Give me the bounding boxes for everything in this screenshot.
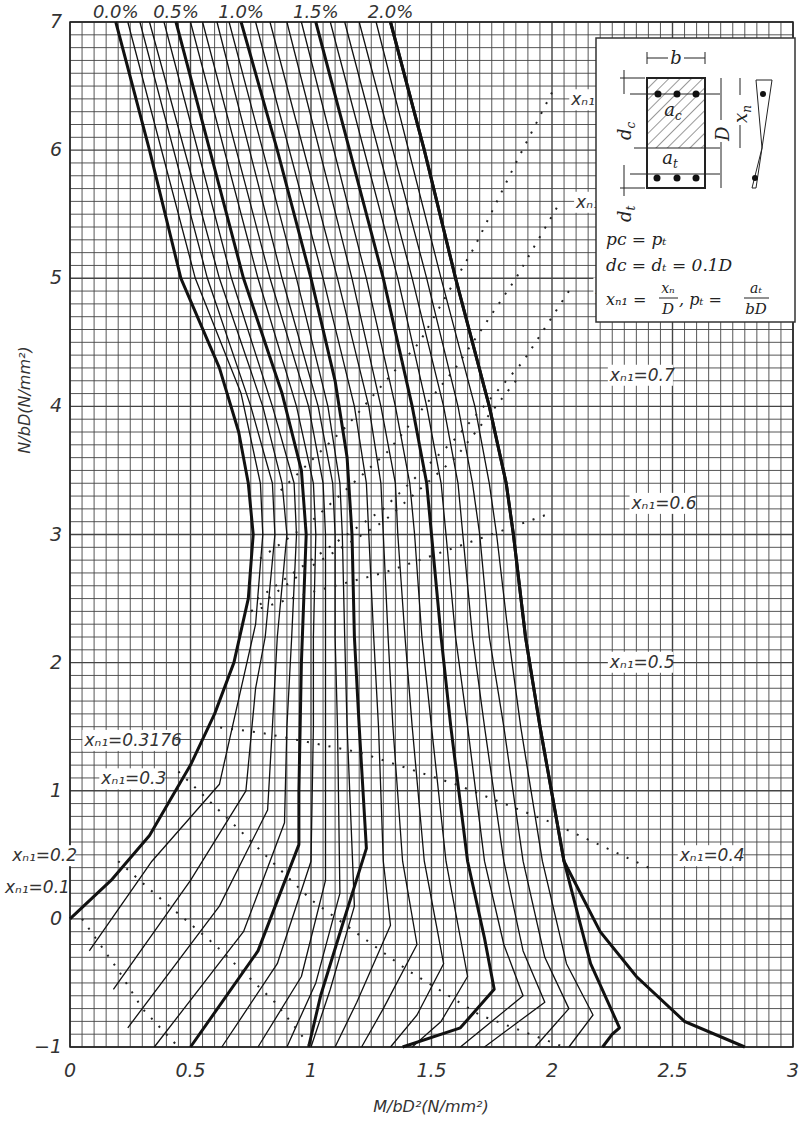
x-tick-label: 2.5 [657,1059,687,1081]
y-tick-label: 2 [50,651,62,673]
xn1-annotation: xₙ₁=0.6 [631,493,697,513]
x-tick-label: 1.5 [416,1059,446,1081]
svg-text:xₙ₁ =: xₙ₁ = [606,290,646,309]
y-tick-label: 5 [50,266,62,288]
x-axis-label: M/bD²(N/mm²) [373,1097,489,1116]
y-tick-label: −1 [34,1035,62,1057]
x-tick-label: 0.5 [175,1059,205,1081]
svg-text:xₙ: xₙ [661,280,675,296]
series-label-top: 2.0% [368,1,414,22]
x-tick-label: 2 [546,1059,558,1081]
y-tick-label: 0 [50,907,62,929]
series-label-top: 0.5% [153,1,199,22]
xn1-annotation: xₙ₁=0.3 [100,768,166,788]
xn1-dotted-line [275,93,552,497]
series-label-top: 1.5% [293,1,339,22]
xn1-annotation: xₙ₁=0.2 [11,845,77,865]
svg-text:, pₜ =: , pₜ = [679,290,722,309]
width-label: b [670,47,682,68]
interaction-diagram-chart: 00.511.522.53−1012345670.0%0.5%1.0%1.5%2… [0,0,810,1129]
formula-ratio-equal: pᴄ = pₜ [606,229,667,249]
xn1-annotation: xₙ₁=0.3176 [83,730,182,750]
depth-label: D [712,126,733,142]
y-tick-label: 3 [50,523,62,545]
xn1-annotation: xₙ₁=0.4 [679,845,745,865]
y-tick-label: 7 [50,10,62,32]
y-tick-label: 6 [50,138,62,160]
series-label-top: 0.0% [93,1,139,22]
x-tick-label: 3 [787,1059,799,1081]
svg-text:aₜ: aₜ [750,280,762,296]
svg-text:D: D [661,300,674,318]
xn1-annotation: xₙ₁=0.1 [4,877,70,897]
y-tick-label: 1 [50,779,62,801]
y-tick-label: 4 [50,394,62,416]
xn1-annotation: xₙ₁=0.7 [609,365,675,385]
formula-cover: dᴄ = dₜ = 0.1D [606,255,733,275]
series-label-top: 1.0% [218,1,264,22]
neutral-axis-dotted-lines [82,93,648,1048]
y-axis-label: N/bD(N/mm²) [15,346,34,453]
xn1-annotation: xₙ₁=0.5 [609,652,675,672]
section-diagram-inset: b ac at dc dt D xn [596,38,795,322]
svg-text:bD: bD [745,300,767,318]
x-tick-label: 0 [64,1059,76,1081]
x-tick-label: 1 [305,1059,317,1081]
